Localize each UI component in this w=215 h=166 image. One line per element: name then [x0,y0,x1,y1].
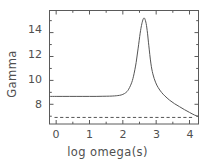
x-tick-label-2: 2 [120,128,127,141]
y-tick-label-10: 10 [20,73,42,86]
series-gamma-curve [50,18,199,117]
x-axis-title: log omega(s) [0,145,215,159]
x-tick-label-1: 1 [86,128,93,141]
x-tick-label-3: 3 [153,128,160,141]
x-axis-minor-ticks [73,11,173,125]
plot-frame [50,11,199,125]
chart-figure: 14 12 10 8 0 1 2 3 4 log omega(s) Gamma [0,0,215,166]
y-tick-label-8: 8 [20,98,42,111]
y-axis-title: Gamma [5,44,19,104]
y-axis-minor-ticks [50,21,199,117]
x-axis-ticks [56,11,189,125]
y-tick-label-12: 12 [20,48,42,61]
y-tick-label-14: 14 [20,23,42,36]
x-tick-label-0: 0 [53,128,60,141]
x-tick-label-4: 4 [187,128,194,141]
